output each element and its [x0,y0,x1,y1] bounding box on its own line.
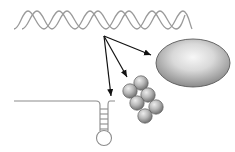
hairpin-left-arm [14,101,100,131]
rna-hairpin [14,101,115,146]
sphere [138,109,152,123]
arrow-to-ellipsoid [104,36,151,55]
diagram-svg [0,0,235,152]
sphere-cluster [123,76,163,123]
arrow-to-spheres [104,36,127,77]
dna-helix [14,11,192,29]
helix-strand-b [22,11,185,29]
hairpin-right-arm [108,101,115,131]
sphere [130,96,144,110]
arrow-to-hairpin [104,36,111,96]
diagram-canvas [0,0,235,152]
hairpin-loop [97,131,112,146]
ellipsoid [156,39,230,87]
